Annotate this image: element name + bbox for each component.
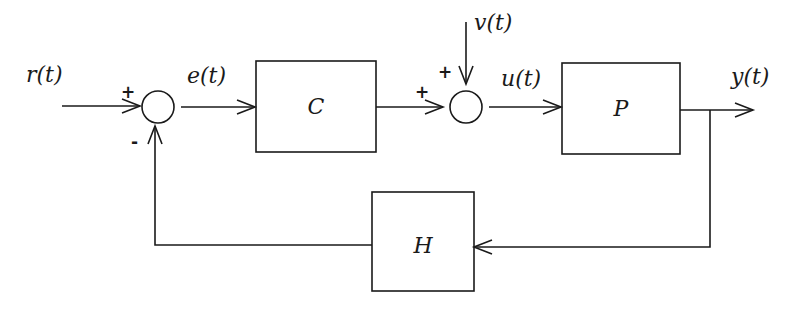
feedback-right-line (474, 110, 710, 247)
summing-junction-error (142, 91, 174, 123)
error-signal-label: e(t) (187, 63, 226, 88)
control-signal-label: u(t) (501, 66, 541, 91)
summing-junction-disturbance (450, 91, 482, 123)
block-diagram: r(t) + - e(t) C + + v(t) u(t) P y(t) H (0, 0, 789, 313)
feedback-label: H (412, 233, 433, 258)
plus-sign: + (415, 82, 429, 102)
plus-sign: + (121, 82, 135, 102)
minus-sign: - (131, 132, 138, 152)
reference-signal-label: r(t) (26, 62, 63, 87)
plus-sign: + (438, 62, 452, 82)
disturbance-signal-label: v(t) (474, 10, 512, 35)
feedback-left-line (155, 126, 372, 245)
controller-label: C (308, 94, 325, 119)
plant-label: P (613, 96, 630, 121)
output-signal-label: y(t) (730, 64, 769, 89)
